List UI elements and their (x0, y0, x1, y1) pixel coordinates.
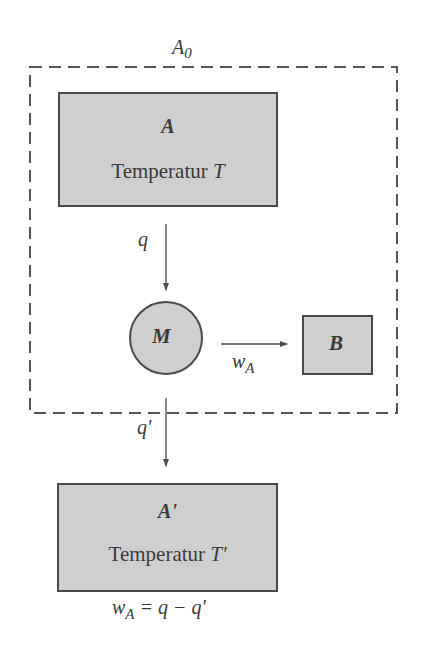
heat-in-label: q (138, 228, 148, 251)
reservoir-a-prime: A' Temperatur T' (58, 484, 277, 591)
temp-symbol: T' (210, 542, 226, 566)
work-equation: wA = q − q' (112, 596, 206, 619)
work-symbol: w (232, 350, 245, 372)
work-label: wA (232, 350, 255, 373)
equation-lhs-subscript: A (125, 606, 134, 622)
reservoir-a-prime-temperature: Temperatur T' (58, 542, 277, 567)
equation-lhs: w (112, 596, 125, 618)
temp-label: Temperatur (111, 159, 207, 183)
boundary-label-subscript: 0 (184, 45, 192, 61)
temp-symbol: T (213, 159, 225, 183)
reservoir-a-name: A (59, 115, 277, 138)
reservoir-a-temperature: Temperatur T (59, 159, 277, 184)
machine-label: M (152, 324, 171, 349)
reservoir-a-prime-name: A' (58, 500, 277, 523)
work-subscript: A (245, 360, 254, 376)
temp-label: Temperatur (109, 542, 205, 566)
heat-out-label: q' (137, 416, 151, 439)
equation-rhs: = q − q' (140, 596, 206, 618)
work-body-label: B (329, 331, 343, 356)
system-boundary-label: A0 (172, 36, 192, 59)
boundary-label-main: A (172, 36, 184, 58)
reservoir-a: A Temperatur T (59, 93, 277, 206)
